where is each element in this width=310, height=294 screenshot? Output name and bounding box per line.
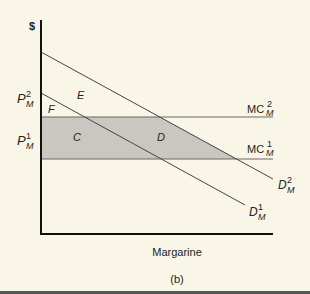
svg-text:2: 2 [287,175,292,185]
mc1-label: MC 1 M [247,139,274,158]
svg-text:1: 1 [258,202,263,212]
svg-text:D: D [278,178,287,192]
svg-text:MC: MC [247,143,264,155]
svg-text:1: 1 [26,131,31,141]
svg-text:D: D [249,205,258,219]
d2-label: D 2 M [278,175,295,195]
price-label-p2: P 2 M [17,89,34,109]
shaded-region [41,117,237,159]
svg-text:P: P [17,133,26,148]
x-axis-label: Margarine [152,246,202,258]
price-label-p1: P 1 M [17,131,34,151]
region-d-label: D [157,131,165,143]
svg-text:M: M [266,148,274,158]
mc2-label: MC 2 M [247,99,274,118]
welfare-diagram: $ P 2 M P 1 M E F C D MC 2 M MC 1 M D 2 … [0,0,310,294]
region-c-label: C [73,131,81,143]
d1-label: D 1 M [249,202,266,222]
svg-text:M: M [26,141,34,151]
svg-text:M: M [266,108,274,118]
figure-caption: (b) [170,273,183,285]
y-axis-label: $ [29,20,35,32]
region-f-label: F [48,103,56,115]
svg-text:P: P [17,91,26,106]
region-e-label: E [77,89,85,101]
svg-text:2: 2 [26,89,31,99]
d2-line [41,52,273,179]
svg-text:M: M [258,212,266,222]
svg-text:MC: MC [247,103,264,115]
svg-text:M: M [287,185,295,195]
svg-text:M: M [26,99,34,109]
